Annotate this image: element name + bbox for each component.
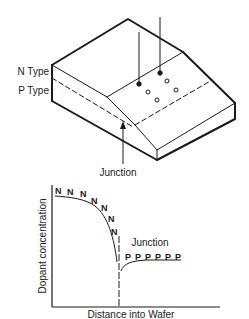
- contact-dot: [165, 79, 169, 83]
- n-curve: [55, 196, 117, 262]
- pn-junction-diagram: N Type P Type Junction N N N N N N N P P: [0, 0, 249, 319]
- junction-label-plot: Junction: [131, 237, 168, 248]
- wafer-left-top-edge: [52, 65, 107, 97]
- wafer-ridge-line: [107, 52, 183, 97]
- wafer-right-bottom-edge: [157, 119, 235, 160]
- p-type-label: P Type: [18, 85, 49, 96]
- p-marker: P: [135, 252, 141, 262]
- n-marker: N: [91, 196, 98, 206]
- wafer-block: [52, 19, 235, 160]
- junction-label-top: Junction: [99, 167, 136, 178]
- junction-dash-top: [135, 80, 212, 125]
- n-marker: N: [111, 227, 118, 237]
- n-marker: N: [55, 186, 62, 196]
- p-marker: P: [145, 252, 151, 262]
- profile-plot: N N N N N N N P P P P P P Junction Dopan…: [37, 185, 220, 319]
- contact-dot: [155, 98, 159, 102]
- p-marker: P: [125, 252, 131, 262]
- p-marker: P: [165, 252, 171, 262]
- n-marker: N: [108, 214, 115, 224]
- n-marker: N: [67, 187, 74, 197]
- junction-dash-left: [52, 78, 133, 127]
- wafer-top-outline: [52, 19, 235, 103]
- p-marker: P: [155, 252, 161, 262]
- n-marker: N: [80, 189, 87, 199]
- contact-dot-filled: [158, 71, 162, 75]
- contact-dot-filled: [137, 82, 141, 86]
- contact-dot: [146, 90, 150, 94]
- wafer-right-top-edge: [157, 103, 235, 150]
- p-marker: P: [175, 252, 181, 262]
- n-marker: N: [101, 203, 108, 213]
- n-markers: N N N N N N N: [55, 186, 118, 237]
- x-axis-label: Distance into Wafer: [88, 309, 176, 319]
- n-type-label: N Type: [18, 66, 50, 77]
- wafer-bevel-edge: [107, 97, 157, 150]
- y-axis-label: Dopant concentration: [37, 198, 48, 293]
- contact-dot: [174, 88, 178, 92]
